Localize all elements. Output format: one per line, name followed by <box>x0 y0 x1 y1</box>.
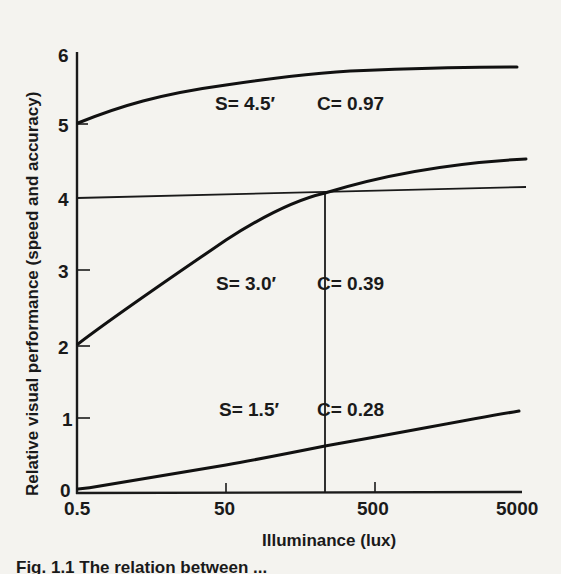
reference-hline-4 <box>77 187 526 198</box>
svg-text:500: 500 <box>357 498 389 519</box>
svg-text:S= 3.0′: S= 3.0′ <box>216 273 276 294</box>
y-axis-title: Relative visual performance (speed and a… <box>23 92 42 496</box>
svg-text:S= 4.5′: S= 4.5′ <box>215 93 275 114</box>
figure-caption: Fig. 1.1 The relation between ... <box>16 556 267 574</box>
curve-s-4-5 <box>78 67 517 123</box>
svg-text:C= 0.97: C= 0.97 <box>317 93 384 114</box>
label-s-1-5: S= 1.5′ C= 0.28 <box>219 399 384 420</box>
svg-text:3: 3 <box>58 261 69 282</box>
svg-text:2: 2 <box>58 337 69 358</box>
x-tick-labels: 0.5 50 500 5000 <box>64 498 538 519</box>
curve-s-1-5 <box>78 411 519 489</box>
x-axis-title: Illuminance (lux) <box>262 531 396 550</box>
y-tick-labels: 6 5 4 3 2 1 0 <box>58 45 73 501</box>
svg-text:5: 5 <box>58 115 69 136</box>
svg-text:6: 6 <box>58 45 69 66</box>
svg-text:5000: 5000 <box>496 498 538 519</box>
curve-s-3-0 <box>78 159 526 344</box>
svg-text:0.5: 0.5 <box>64 498 91 519</box>
svg-text:4: 4 <box>58 189 69 210</box>
svg-text:C= 0.28: C= 0.28 <box>317 399 384 420</box>
svg-text:1: 1 <box>62 409 73 430</box>
svg-text:50: 50 <box>214 498 235 519</box>
label-s-3-0: S= 3.0′ C= 0.39 <box>216 273 384 294</box>
chart: 6 5 4 3 2 1 0 0.5 50 500 5000 Illuminanc… <box>0 0 561 574</box>
x-axis <box>76 492 522 493</box>
svg-text:C= 0.39: C= 0.39 <box>317 273 384 294</box>
label-s-4-5: S= 4.5′ C= 0.97 <box>215 93 384 114</box>
y-ticks <box>77 124 90 418</box>
svg-text:S= 1.5′: S= 1.5′ <box>219 399 279 420</box>
